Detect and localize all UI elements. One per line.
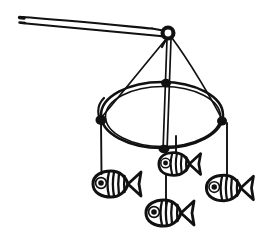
knot-right xyxy=(217,116,227,125)
fish-body-outline xyxy=(93,171,128,197)
fish-right xyxy=(206,175,253,200)
rod-lower-edge xyxy=(21,23,160,36)
fish-gill-line xyxy=(108,172,110,196)
mobile-illustration xyxy=(0,0,262,239)
fish-left xyxy=(93,171,141,197)
fish-gill-line xyxy=(221,176,222,200)
hoop xyxy=(98,82,223,148)
fish-body-outline xyxy=(146,200,181,226)
fish-stripe-1 xyxy=(113,172,114,196)
fish-body-outline xyxy=(206,175,240,200)
knot-back-center xyxy=(161,79,171,87)
fish-eye xyxy=(163,161,168,166)
fish-bottom-middle xyxy=(146,200,194,226)
fish-gill-line xyxy=(161,201,163,225)
fish-stripe-2 xyxy=(118,173,119,195)
rod-upper-edge xyxy=(21,17,152,29)
hub-knot-hole xyxy=(165,30,172,37)
rod-left-tip-lower xyxy=(20,23,26,24)
fish-stripe-2 xyxy=(181,155,182,174)
hoop-knots xyxy=(96,79,228,153)
support-rod xyxy=(20,17,168,38)
fish-stripe-2 xyxy=(231,177,232,199)
fish-stripe-1 xyxy=(166,201,167,225)
fish-eye xyxy=(98,180,104,186)
fish-eye xyxy=(211,184,216,189)
fish-tail xyxy=(128,172,141,196)
string-center-left-edge xyxy=(163,39,167,151)
string-center-right-edge xyxy=(167,39,171,151)
string-right xyxy=(172,38,222,119)
drawing-canvas xyxy=(0,0,262,239)
fish-stripe-1 xyxy=(226,176,227,200)
hub-knot xyxy=(161,26,176,48)
string-left xyxy=(101,38,167,118)
fish-upper-middle xyxy=(155,153,201,176)
fish-tail xyxy=(241,176,254,200)
drop-string-left xyxy=(101,122,102,174)
fish-stripe-1 xyxy=(176,154,177,175)
hoop-outer-edge xyxy=(101,82,223,148)
fish-eye xyxy=(151,209,157,215)
fish-stripe-2 xyxy=(171,202,172,224)
rod-left-tip xyxy=(20,18,25,19)
fish-tail xyxy=(181,201,194,225)
